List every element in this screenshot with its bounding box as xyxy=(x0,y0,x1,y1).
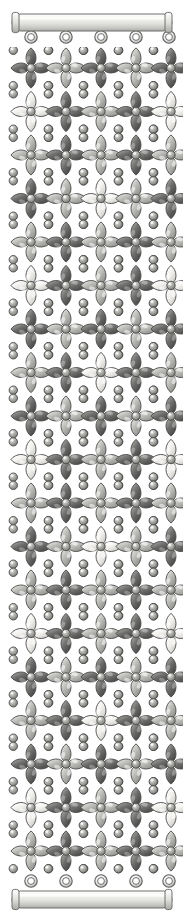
corner-seed-bead xyxy=(44,430,52,438)
center-seed-bead xyxy=(27,107,35,115)
seed-bead-highlight xyxy=(81,222,84,225)
corner-seed-bead xyxy=(9,821,17,829)
seed-bead-highlight xyxy=(98,848,101,851)
seed-bead-highlight xyxy=(81,562,84,565)
seed-bead-highlight xyxy=(133,413,136,416)
seed-bead-highlight xyxy=(81,396,84,399)
corner-seed-bead xyxy=(44,525,52,533)
corner-seed-bead xyxy=(44,742,52,750)
center-seed-bead xyxy=(167,107,175,115)
seed-bead-highlight xyxy=(116,605,119,608)
seed-bead-highlight xyxy=(133,718,136,721)
corner-seed-bead xyxy=(79,778,87,786)
center-seed-bead xyxy=(97,673,105,681)
seed-bead-highlight xyxy=(46,562,49,565)
corner-seed-bead xyxy=(114,612,122,620)
seed-bead-highlight xyxy=(46,135,49,138)
center-seed-bead xyxy=(97,412,105,420)
seed-bead-highlight xyxy=(116,439,119,442)
corner-seed-bead xyxy=(114,604,122,612)
center-seed-bead xyxy=(167,151,175,159)
center-seed-bead xyxy=(167,803,175,811)
center-seed-bead xyxy=(97,325,105,333)
corner-seed-bead xyxy=(114,343,122,351)
corner-seed-bead xyxy=(149,256,157,264)
corner-seed-bead xyxy=(149,604,157,612)
seed-bead-highlight xyxy=(81,570,84,573)
center-seed-bead xyxy=(167,716,175,724)
seed-bead-highlight xyxy=(11,518,14,521)
corner-seed-bead xyxy=(149,212,157,220)
center-seed-bead xyxy=(27,629,35,637)
seed-bead-highlight xyxy=(116,483,119,486)
center-seed-bead xyxy=(167,586,175,594)
clasp-loop-ring-hole xyxy=(63,34,70,41)
clasp-bar[interactable] xyxy=(12,891,172,908)
clasp-bar-end-cap xyxy=(165,889,172,909)
seed-bead-highlight xyxy=(168,544,171,547)
seed-bead-highlight xyxy=(116,787,119,790)
corner-seed-bead xyxy=(44,691,52,699)
seed-bead-highlight xyxy=(151,736,154,739)
seed-bead-highlight xyxy=(151,526,154,529)
seed-bead-highlight xyxy=(133,805,136,808)
seed-bead-highlight xyxy=(63,413,66,416)
clasp-loop-ring-hole xyxy=(166,34,173,41)
seed-bead-highlight xyxy=(81,866,84,869)
seed-bead-highlight xyxy=(46,257,49,260)
seed-bead-highlight xyxy=(46,214,49,217)
seed-bead-highlight xyxy=(46,170,49,173)
corner-seed-bead xyxy=(44,386,52,394)
seed-bead-highlight xyxy=(11,475,14,478)
clasp-loop-ring-hole xyxy=(98,34,105,41)
seed-bead-highlight xyxy=(11,344,14,347)
center-seed-bead xyxy=(167,499,175,507)
seed-bead-highlight xyxy=(168,718,171,721)
corner-seed-bead xyxy=(9,829,17,837)
seed-bead-highlight xyxy=(81,649,84,652)
center-seed-bead xyxy=(27,716,35,724)
seed-bead-highlight xyxy=(11,83,14,86)
center-seed-bead xyxy=(97,151,105,159)
corner-seed-bead xyxy=(44,299,52,307)
corner-seed-bead xyxy=(79,343,87,351)
corner-seed-bead xyxy=(44,264,52,272)
corner-seed-bead xyxy=(149,430,157,438)
seed-bead-highlight xyxy=(98,196,101,199)
center-seed-bead xyxy=(27,412,35,420)
corner-seed-bead xyxy=(114,778,122,786)
seed-bead-highlight xyxy=(46,396,49,399)
seed-bead-highlight xyxy=(63,109,66,112)
seed-bead-highlight xyxy=(151,265,154,268)
seed-bead-highlight xyxy=(28,674,31,677)
seed-bead-highlight xyxy=(46,831,49,834)
corner-seed-bead xyxy=(149,517,157,525)
seed-bead-highlight xyxy=(116,736,119,739)
seed-bead-highlight xyxy=(116,301,119,304)
seed-bead-highlight xyxy=(116,570,119,573)
seed-bead-highlight xyxy=(116,779,119,782)
seed-bead-highlight xyxy=(46,657,49,660)
seed-bead-highlight xyxy=(46,309,49,312)
seed-bead-highlight xyxy=(151,700,154,703)
seed-bead-highlight xyxy=(133,544,136,547)
center-seed-bead xyxy=(97,64,105,72)
center-seed-bead xyxy=(62,194,70,202)
seed-bead-highlight xyxy=(98,718,101,721)
corner-seed-bead xyxy=(79,525,87,533)
corner-seed-bead xyxy=(79,734,87,742)
seed-bead-highlight xyxy=(98,326,101,329)
seed-bead-highlight xyxy=(151,831,154,834)
seed-bead-highlight xyxy=(133,848,136,851)
clasp-bar[interactable] xyxy=(12,14,172,31)
seed-bead-highlight xyxy=(28,109,31,112)
center-seed-bead xyxy=(62,542,70,550)
seed-bead-highlight xyxy=(81,518,84,521)
center-seed-bead xyxy=(132,325,140,333)
center-seed-bead xyxy=(132,499,140,507)
corner-seed-bead xyxy=(79,125,87,133)
seed-bead-highlight xyxy=(168,239,171,242)
corner-seed-bead xyxy=(44,307,52,315)
center-seed-bead xyxy=(62,455,70,463)
center-seed-bead xyxy=(62,412,70,420)
